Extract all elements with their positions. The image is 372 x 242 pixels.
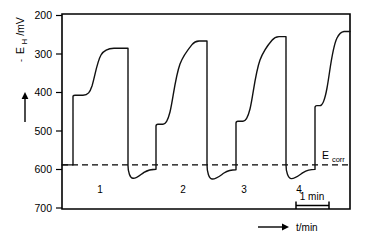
ecorr-subscript: corr <box>332 155 345 164</box>
potential-time-chart: 200 300 400 500 600 700 - E H /mV E corr <box>0 0 372 242</box>
y-axis-title: - E H /mV <box>14 17 29 62</box>
ecorr-symbol: E <box>322 149 329 161</box>
chart-figure: 200 300 400 500 600 700 - E H /mV E corr <box>0 0 372 242</box>
y-axis-subscript: H <box>20 39 29 44</box>
x-axis-arrow-icon <box>258 224 289 231</box>
y-axis-ticks <box>56 16 62 209</box>
scale-bar <box>296 202 329 210</box>
scale-bar-label: 1 min <box>300 191 324 202</box>
y-tick-label-200: 200 <box>34 9 52 21</box>
y-tick-label-600: 600 <box>34 163 52 175</box>
y-axis-arrow-icon <box>22 92 29 122</box>
y-axis-unit: /mV <box>14 17 26 36</box>
cycle-label-2: 2 <box>180 184 186 195</box>
y-tick-label-700: 700 <box>34 202 52 214</box>
x-axis-title: t/min <box>296 222 318 233</box>
y-tick-label-300: 300 <box>34 48 52 60</box>
potential-transient-curve <box>62 32 350 180</box>
y-axis-minus-sign: - <box>16 59 26 62</box>
cycle-label-1: 1 <box>97 184 103 195</box>
plot-frame <box>62 14 350 209</box>
y-tick-label-500: 500 <box>34 125 52 137</box>
ecorr-annotation: E corr <box>322 149 345 164</box>
y-axis-symbol: E <box>14 47 26 54</box>
cycle-label-3: 3 <box>241 184 247 195</box>
svg-text:- E H: - E H /mV <box>14 17 29 62</box>
y-tick-label-400: 400 <box>34 86 52 98</box>
